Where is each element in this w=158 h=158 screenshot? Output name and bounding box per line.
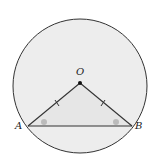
- label-a: A: [15, 120, 22, 131]
- angle-marker-b: [113, 119, 119, 125]
- label-b: B: [135, 120, 142, 131]
- angle-marker-a: [41, 119, 47, 125]
- label-o: O: [76, 66, 84, 77]
- center-point-o: [78, 81, 82, 85]
- diagram-canvas: [0, 0, 158, 158]
- circle-diagram: O A B: [0, 0, 158, 158]
